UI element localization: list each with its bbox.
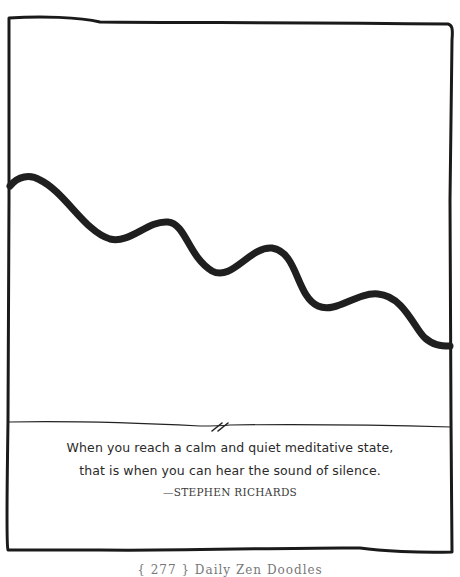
divider-line [9, 422, 451, 427]
page-footer: { 277 } Daily Zen Doodles [0, 563, 460, 577]
quote-attribution: —STEPHEN RICHARDS [0, 486, 460, 498]
wavy-line [10, 177, 450, 346]
break-mark-icon [212, 423, 228, 431]
quote-line-2: that is when you can hear the sound of s… [0, 463, 460, 478]
quote-line-1: When you reach a calm and quiet meditati… [0, 440, 460, 455]
